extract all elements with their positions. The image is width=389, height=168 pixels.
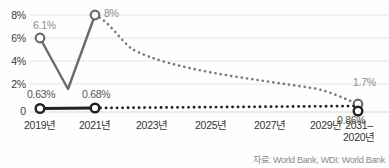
- x-axis-tick-2027: 2027년: [240, 119, 300, 131]
- data-label-0-68: 0.68%: [82, 88, 110, 100]
- data-label-1-7: 1.7%: [353, 76, 376, 88]
- x-axis-tick-2019: 2019년: [10, 119, 70, 131]
- data-label-6-1: 6.1%: [33, 19, 56, 31]
- y-axis-tick-2: 2%: [0, 78, 26, 90]
- y-axis-tick-0: 0: [0, 105, 26, 117]
- chart-container: 8% 6% 4% 2% 0 2019년 2021년 2023년 2025년 20…: [0, 0, 389, 168]
- series-lower-forecast-line: [95, 106, 358, 108]
- data-point-marker: [36, 34, 45, 43]
- x-axis-tick-2031-line2: 2020년: [331, 131, 387, 143]
- series-upper-forecast-line: [95, 15, 358, 104]
- x-axis-tick-2023: 2023년: [122, 119, 182, 131]
- data-point-marker: [91, 11, 100, 20]
- series-lower-actual-line: [40, 108, 95, 109]
- series-lower: [36, 104, 363, 116]
- data-point-marker: [91, 104, 100, 113]
- data-label-0-86: 0.86%: [337, 114, 365, 126]
- data-point-marker: [36, 104, 45, 113]
- x-axis-tick-2021: 2021년: [65, 119, 125, 131]
- source-note: 자료: World Bank, WDI: World Bank: [253, 153, 385, 166]
- x-axis-tick-2025: 2025년: [181, 119, 241, 131]
- y-axis-tick-8: 8%: [0, 9, 26, 21]
- y-axis-tick-6: 6%: [0, 32, 26, 44]
- y-axis-tick-4: 4%: [0, 55, 26, 67]
- data-label-8: 8%: [104, 7, 119, 19]
- data-label-0-63: 0.63%: [27, 88, 55, 100]
